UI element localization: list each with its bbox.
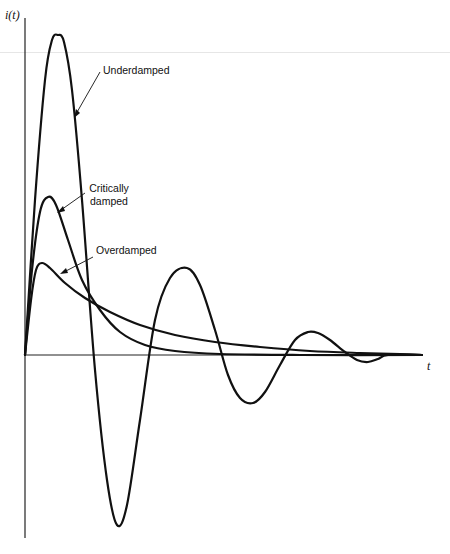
critically-damped-arrow [57, 193, 85, 213]
critically-damped-label: Critically damped [84, 182, 134, 207]
underdamped-arrow [74, 72, 100, 118]
overdamped-label: Overdamped [96, 244, 157, 257]
x-axis-label: t [427, 359, 430, 374]
underdamped-label: Underdamped [103, 64, 170, 77]
overdamped-curve [25, 263, 422, 355]
critically-label-line2: damped [84, 195, 134, 208]
underdamped-curve [25, 34, 422, 526]
damping-response-plot [0, 0, 450, 554]
critically-label-line1: Critically [84, 182, 134, 195]
y-axis-label: i(t) [5, 8, 20, 23]
